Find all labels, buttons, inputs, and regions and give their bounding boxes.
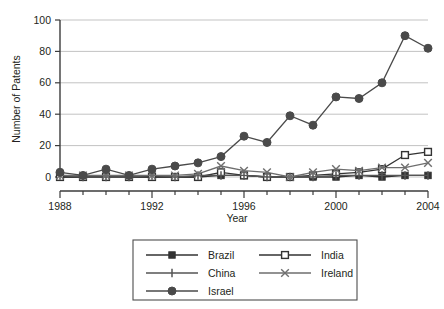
- legend-label-china: China: [208, 267, 236, 279]
- patents-line-chart-figure: 020406080100 19881992199620002004 Number…: [0, 0, 444, 309]
- series-point-india-2003: [402, 152, 409, 159]
- y-tick-label-60: 60: [39, 76, 51, 88]
- series-point-israel-2004: [424, 44, 432, 52]
- legend-marker-brazil: [169, 252, 175, 258]
- series-point-india-2004: [425, 148, 432, 155]
- series-israel: [56, 32, 432, 180]
- series-point-israel-2000: [332, 93, 340, 101]
- series-point-israel-1997: [263, 138, 271, 146]
- x-tick-label-2004: 2004: [416, 200, 440, 212]
- series-point-israel-1993: [171, 162, 179, 170]
- x-tick-label-2000: 2000: [324, 200, 348, 212]
- y-axis-title: Number of Patents: [10, 55, 22, 143]
- x-tick-label-1992: 1992: [140, 200, 164, 212]
- series-point-israel-1991: [125, 171, 133, 179]
- series-point-israel-1988: [56, 168, 64, 176]
- data-series-group: [56, 32, 432, 182]
- series-point-israel-1998: [286, 112, 294, 120]
- legend: BrazilIndiaChinaIrelandIsrael: [133, 240, 357, 300]
- y-tick-label-0: 0: [45, 171, 51, 183]
- series-point-israel-2003: [401, 32, 409, 40]
- series-point-israel-1989: [79, 171, 87, 179]
- series-point-israel-1992: [148, 165, 156, 173]
- y-axis-ticks-group: 020406080100: [33, 14, 60, 183]
- y-tick-label-100: 100: [33, 14, 51, 26]
- x-axis-ticks-group: 19881992199620002004: [48, 191, 440, 212]
- series-point-israel-1999: [309, 121, 317, 129]
- legend-label-ireland: Ireland: [321, 267, 353, 279]
- series-point-israel-1995: [217, 153, 225, 161]
- series-point-israel-2001: [355, 95, 363, 103]
- series-point-israel-1996: [240, 132, 248, 140]
- x-tick-label-1996: 1996: [232, 200, 256, 212]
- chart-canvas: 020406080100 19881992199620002004 Number…: [0, 0, 444, 309]
- legend-label-brazil: Brazil: [208, 249, 234, 261]
- x-tick-label-1988: 1988: [48, 200, 72, 212]
- x-axis-title: Year: [226, 212, 248, 224]
- legend-label-israel: Israel: [208, 285, 234, 297]
- series-point-israel-1990: [102, 165, 110, 173]
- series-point-israel-1994: [194, 159, 202, 167]
- legend-label-india: India: [321, 249, 344, 261]
- y-tick-label-80: 80: [39, 45, 51, 57]
- legend-marker-israel: [168, 287, 176, 295]
- series-point-israel-2002: [378, 79, 386, 87]
- y-tick-label-40: 40: [39, 108, 51, 120]
- gridlines-group: [60, 20, 428, 177]
- y-tick-label-20: 20: [39, 139, 51, 151]
- legend-marker-india: [282, 252, 289, 259]
- series-line-israel: [60, 36, 428, 176]
